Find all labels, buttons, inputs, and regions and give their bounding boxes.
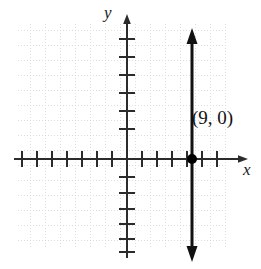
plot-area	[0, 0, 261, 269]
y-axis-label: y	[104, 4, 112, 21]
graph-figure: y x (9, 0)	[0, 0, 261, 269]
x-axis	[14, 155, 248, 163]
y-axis	[123, 14, 131, 258]
x-axis-label: x	[243, 161, 251, 178]
point-coordinate-label: (9, 0)	[192, 108, 233, 127]
vertical-line-series	[187, 28, 198, 262]
point-marker	[187, 154, 197, 164]
